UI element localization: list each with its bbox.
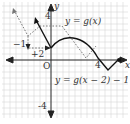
y-axis-label: y xyxy=(53,1,60,11)
x-axis-label: x xyxy=(125,60,130,70)
y-tick-neg4-label: -4 xyxy=(38,101,47,111)
origin-label: O xyxy=(43,61,50,71)
y-axis-bottom-arrow-icon xyxy=(48,111,54,118)
endpoint-dot xyxy=(117,58,121,62)
y-tick-4-label: 4 xyxy=(45,11,51,21)
transformed-curve-label: y = g(x − 2) − 1 xyxy=(54,75,129,85)
graph-canvas: y x O 4 4 -4 −1 +2 y = g(x) y = g(x − 2)… xyxy=(0,0,130,124)
shift-down-label: −1 xyxy=(13,39,26,49)
x-axis-left-arrow-icon xyxy=(6,57,13,63)
shift-right-label: +2 xyxy=(31,49,44,59)
g-curve-label: y = g(x) xyxy=(64,16,102,26)
x-tick-4-label: 4 xyxy=(95,60,101,70)
